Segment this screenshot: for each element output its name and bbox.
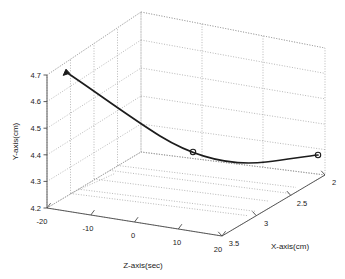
back-right-wall-outline — [141, 12, 325, 175]
x-axis: 3.5 3 2.5 2 X-axis(cm) — [218, 171, 336, 251]
y-tick-label-4.2: 4.2 — [31, 204, 41, 213]
grid-floor-z-0 — [94, 179, 269, 201]
x-tick-label-2: 2 — [332, 178, 336, 187]
plot-3d-axes: 4.7 4.6 4.5 4.4 4.3 4.2 Y-axis(cm) -20 -… — [0, 0, 345, 279]
grid-right-y-4.7 — [141, 12, 325, 48]
grid-floor-z-10 — [118, 166, 297, 188]
z-tick-label-0: 0 — [131, 231, 135, 240]
z-tick-label--20: -20 — [37, 217, 48, 226]
grid-right-y-4.3 — [141, 124, 325, 150]
z-tick-label-20: 20 — [214, 245, 222, 254]
x-axis-title: X-axis(cm) — [271, 242, 310, 251]
x-tick-label-2.5: 2.5 — [297, 199, 307, 208]
y-tick-label-4.7: 4.7 — [31, 71, 41, 80]
back-right-wall-grid — [141, 12, 325, 175]
x-axis-line — [222, 175, 325, 236]
y-tick-label-4.6: 4.6 — [31, 97, 41, 106]
x-tick-label-3: 3 — [264, 219, 268, 228]
z-tick--10 — [91, 210, 95, 215]
y-axis-title: Y-axis(cm) — [11, 122, 20, 160]
y-tick-label-4.4: 4.4 — [31, 151, 41, 160]
z-tick--20 — [47, 203, 51, 208]
grid-floor-z--10-a — [71, 174, 115, 194]
back-left-wall-grid — [47, 12, 141, 208]
z-axis-title: Z-axis(sec) — [123, 261, 163, 270]
x-tick-label-3.5: 3.5 — [229, 239, 239, 248]
z-tick-label--10: -10 — [83, 224, 94, 233]
grid-right-y-4.5 — [141, 68, 325, 99]
x-tick-2.5 — [287, 191, 291, 195]
x-tick-3 — [253, 212, 257, 216]
figure-canvas: 4.7 4.6 4.5 4.4 4.3 4.2 Y-axis(cm) -20 -… — [0, 0, 345, 279]
y-tick-label-4.3: 4.3 — [31, 177, 41, 186]
z-axis: -20 -10 0 10 20 Z-axis(sec) — [37, 203, 226, 270]
grid-right-y-4.6 — [141, 40, 325, 73]
grid-left-y-4.4 — [47, 96, 141, 155]
y-tick-label-4.5: 4.5 — [31, 124, 41, 133]
data-series-trajectory — [63, 69, 320, 163]
grid-floor-x-2.5 — [110, 170, 290, 193]
grid-floor-x-3 — [79, 189, 256, 211]
grid-right-y-4.2 — [141, 152, 325, 175]
grid-right-y-4.4 — [141, 96, 325, 124]
z-tick-0 — [135, 217, 139, 222]
y-axis: 4.7 4.6 4.5 4.4 4.3 4.2 Y-axis(cm) — [11, 71, 47, 213]
z-tick-label-10: 10 — [173, 238, 181, 247]
grid-floor-z--10 — [71, 194, 248, 216]
z-tick-10 — [178, 224, 182, 229]
